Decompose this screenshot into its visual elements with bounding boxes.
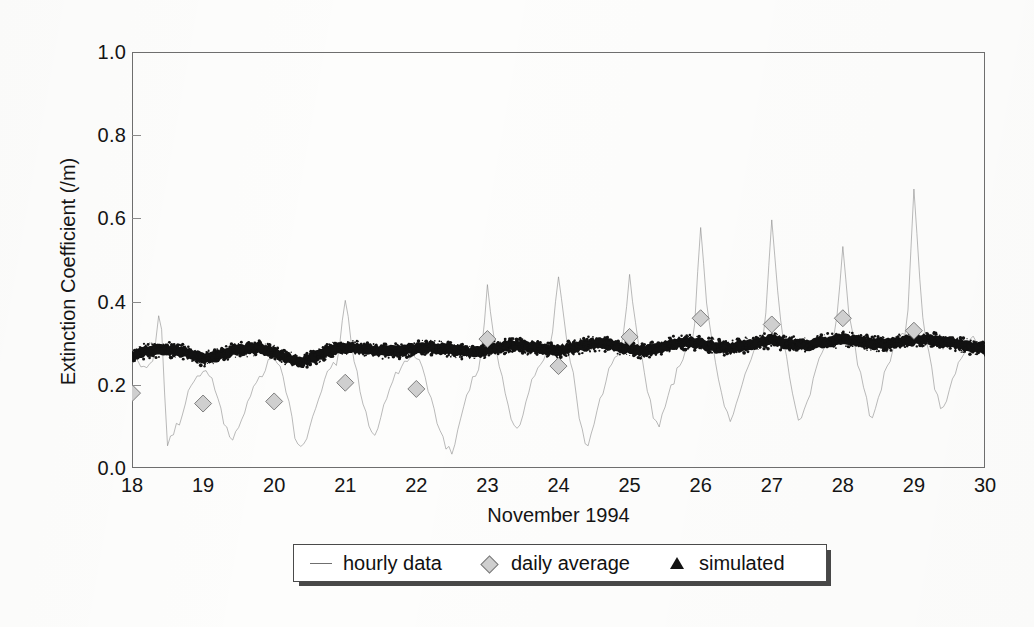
simulated-point [661, 352, 662, 353]
simulated-point [808, 347, 809, 348]
simulated-point [814, 339, 815, 340]
simulated-point [947, 338, 948, 339]
simulated-point [289, 355, 291, 357]
simulated-point [876, 344, 879, 347]
simulated-point [395, 347, 397, 349]
simulated-point [751, 343, 753, 345]
simulated-point [451, 351, 453, 353]
simulated-point [195, 358, 197, 360]
simulated-point [736, 351, 738, 353]
simulated-point [954, 339, 956, 341]
simulated-point [321, 352, 324, 355]
simulated-point [723, 354, 726, 357]
legend-entry[interactable]: hourly data [308, 552, 442, 575]
simulated-point [746, 340, 747, 341]
simulated-point [245, 351, 248, 354]
simulated-point [465, 345, 467, 347]
simulated-point [212, 351, 215, 354]
simulated-point [187, 357, 189, 359]
y-axis-tick-label: 0.8 [78, 124, 126, 147]
simulated-point [687, 348, 689, 350]
y-axis-tick-mark [132, 218, 141, 219]
simulated-point [247, 341, 250, 344]
simulated-point [138, 349, 140, 351]
simulated-point [908, 336, 910, 338]
simulated-point [754, 336, 758, 340]
simulated-point [234, 343, 236, 345]
simulated-point [229, 353, 232, 356]
simulated-point [744, 346, 747, 349]
simulated-point [454, 344, 455, 345]
simulated-point [637, 352, 641, 356]
simulated-point [705, 347, 709, 351]
simulated-point [966, 338, 967, 339]
simulated-point [455, 357, 456, 358]
daily-average-marker [337, 374, 354, 391]
simulated-point [766, 347, 770, 351]
simulated-point [182, 358, 185, 361]
simulated-point [965, 341, 967, 343]
simulated-point [921, 340, 923, 342]
simulated-point [934, 343, 936, 345]
simulated-point [876, 338, 878, 340]
x-axis-tick-label: 21 [322, 474, 368, 497]
simulated-point [866, 349, 868, 351]
simulated-point [774, 337, 776, 339]
simulated-point [895, 346, 897, 348]
simulated-point [591, 343, 594, 346]
simulated-point [651, 344, 655, 348]
simulated-point [847, 345, 850, 348]
simulated-point [707, 342, 711, 346]
simulated-point [630, 353, 631, 354]
simulated-point [841, 331, 844, 334]
simulated-point [357, 347, 359, 349]
simulated-point [474, 358, 475, 359]
simulated-point [622, 351, 626, 355]
simulated-point [787, 345, 789, 347]
simulated-point [590, 348, 592, 350]
simulated-point [460, 349, 462, 351]
simulated-point [804, 350, 806, 352]
simulated-point [352, 349, 354, 351]
simulated-point [890, 349, 893, 352]
simulated-point [163, 352, 165, 354]
simulated-point [180, 344, 183, 347]
x-axis-tick-label: 23 [464, 474, 510, 497]
simulated-point [801, 349, 802, 350]
simulated-point [290, 360, 293, 363]
simulated-point [160, 350, 161, 351]
simulated-point [966, 345, 968, 347]
simulated-point [816, 344, 817, 345]
simulated-point [162, 344, 164, 346]
simulated-point [345, 347, 349, 351]
simulated-point [661, 345, 662, 346]
simulated-point [560, 351, 563, 354]
simulated-point [325, 346, 327, 348]
simulated-point [730, 349, 734, 353]
simulated-point [619, 354, 621, 356]
simulated-point [305, 365, 308, 368]
simulated-point [504, 343, 507, 346]
simulated-point [187, 345, 190, 348]
simulated-point [320, 350, 322, 352]
simulated-point [720, 344, 722, 346]
simulated-point [296, 363, 300, 367]
simulated-point [422, 340, 423, 341]
simulated-point [421, 345, 424, 348]
simulated-point [631, 347, 634, 350]
simulated-point [151, 350, 154, 353]
legend-entry[interactable]: simulated [664, 552, 785, 575]
simulated-point [594, 350, 597, 353]
simulated-point [525, 341, 528, 344]
simulated-point [493, 348, 497, 352]
simulated-point [640, 346, 642, 348]
simulated-point [976, 341, 978, 343]
simulated-point [460, 358, 463, 361]
simulated-point [384, 355, 387, 358]
simulated-point [785, 347, 787, 349]
simulated-point [575, 345, 579, 349]
legend-entry[interactable]: daily average [476, 552, 630, 575]
simulated-point [316, 359, 317, 360]
simulated-point [874, 343, 875, 344]
y-axis-tick-label: 0.6 [78, 207, 126, 230]
